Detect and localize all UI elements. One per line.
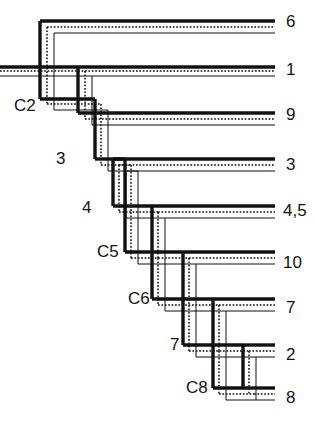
tip-label-2: 2 [286, 346, 295, 363]
node-label-c5: C5 [97, 243, 119, 260]
node-label-3: 3 [56, 150, 65, 167]
tip-label-6: 6 [286, 13, 295, 30]
node-label-c6: C6 [128, 290, 150, 307]
dendrogram-canvas [0, 0, 315, 424]
tip-label-10: 10 [283, 254, 302, 271]
tip-label-9: 9 [286, 106, 295, 123]
dendrogram-figure: 6 1 9 3 4,5 10 7 2 8 C2 3 4 C5 C6 7 C8 [0, 0, 315, 424]
node-label-7: 7 [170, 336, 179, 353]
tip-label-8: 8 [286, 389, 295, 406]
tip-label-7: 7 [286, 299, 295, 316]
tip-label-4-5: 4,5 [283, 202, 307, 219]
tree-branches [0, 21, 275, 400]
node-label-4: 4 [82, 199, 91, 216]
node-label-c8: C8 [186, 379, 208, 396]
tip-label-1: 1 [286, 61, 295, 78]
node-label-c2: C2 [14, 97, 36, 114]
tip-label-3: 3 [286, 156, 295, 173]
